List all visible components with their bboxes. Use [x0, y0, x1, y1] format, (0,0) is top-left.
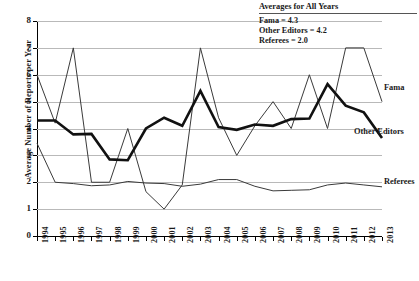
- x-tick-mark-2007: [273, 237, 274, 241]
- x-tick-mark-2010: [328, 237, 329, 241]
- annotation-line-other-editors: Other Editors = 4.2: [259, 26, 417, 36]
- series-lines: [37, 21, 382, 236]
- x-tick-label-1994: 1994: [41, 226, 50, 243]
- y-tick-label-1: 1: [9, 204, 31, 213]
- x-tick-label-2003: 2003: [204, 226, 213, 243]
- x-axis: 1994199519961997199819992000200120022003…: [37, 237, 382, 281]
- x-tick-label-2006: 2006: [259, 226, 268, 243]
- annotation-title: Averages for All Years: [259, 2, 417, 14]
- y-tick-label-0: 0: [9, 231, 31, 240]
- x-tick-label-2002: 2002: [186, 226, 195, 243]
- y-tick-label-5: 5: [9, 97, 31, 106]
- x-tick-mark-2012: [364, 237, 365, 241]
- series-label-referees: Referees: [384, 177, 415, 186]
- x-tick-label-2001: 2001: [168, 226, 177, 243]
- x-tick-label-2012: 2012: [368, 226, 377, 243]
- x-tick-mark-2003: [200, 237, 201, 241]
- x-tick-label-2011: 2011: [350, 227, 359, 243]
- line-referees: [37, 143, 382, 191]
- y-tick-label-2: 2: [9, 177, 31, 186]
- annotation-line-referees: Referees = 2.0: [259, 36, 417, 46]
- x-tick-label-2000: 2000: [150, 226, 159, 243]
- annotation-line-fama: Fama = 4.3: [259, 16, 417, 26]
- x-tick-mark-1996: [73, 237, 74, 241]
- y-tick-label-6: 6: [9, 70, 31, 79]
- chart-container: Average Number of Reports per Year 01234…: [0, 0, 419, 281]
- x-tick-label-2005: 2005: [241, 226, 250, 243]
- x-tick-label-2004: 2004: [223, 226, 232, 243]
- x-tick-label-2007: 2007: [277, 226, 286, 243]
- x-tick-mark-1994: [37, 237, 38, 241]
- x-tick-mark-2004: [219, 237, 220, 241]
- x-tick-label-2008: 2008: [295, 226, 304, 243]
- x-tick-mark-1998: [110, 237, 111, 241]
- x-tick-label-1999: 1999: [132, 226, 141, 243]
- averages-annotation: Averages for All Years Fama = 4.3 Other …: [259, 2, 417, 46]
- x-tick-mark-2005: [237, 237, 238, 241]
- series-label-other-editors: Other Editors: [354, 127, 404, 136]
- series-label-fama: Fama: [384, 83, 404, 92]
- x-tick-mark-2002: [182, 237, 183, 241]
- x-tick-label-1996: 1996: [77, 226, 86, 243]
- x-tick-mark-2001: [164, 237, 165, 241]
- x-tick-mark-1999: [128, 237, 129, 241]
- x-tick-label-1998: 1998: [114, 226, 123, 243]
- x-tick-label-2010: 2010: [332, 226, 341, 243]
- line-other-editors: [37, 84, 382, 160]
- y-tick-label-7: 7: [9, 43, 31, 52]
- y-tick-label-8: 8: [9, 16, 31, 25]
- y-tick-label-3: 3: [9, 150, 31, 159]
- x-tick-mark-2013: [382, 237, 383, 241]
- x-tick-label-1997: 1997: [95, 226, 104, 243]
- x-tick-mark-2008: [291, 237, 292, 241]
- x-tick-mark-2006: [255, 237, 256, 241]
- y-axis-title: Average Number of Reports per Year: [23, 29, 33, 189]
- x-tick-mark-1995: [55, 237, 56, 241]
- x-tick-mark-2000: [146, 237, 147, 241]
- x-tick-label-2009: 2009: [313, 226, 322, 243]
- plot-area: [37, 21, 382, 236]
- x-tick-mark-2009: [309, 237, 310, 241]
- y-tick-label-4: 4: [9, 124, 31, 133]
- x-tick-mark-2011: [346, 237, 347, 241]
- x-tick-label-2013: 2013: [386, 226, 395, 243]
- x-tick-mark-1997: [91, 237, 92, 241]
- x-tick-label-1995: 1995: [59, 226, 68, 243]
